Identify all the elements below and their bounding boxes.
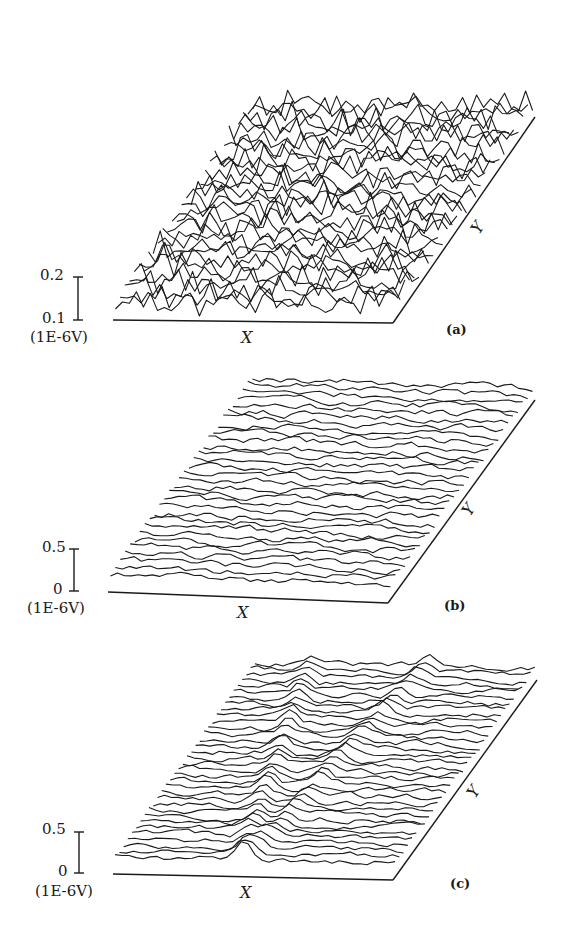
z-top-label-c: 0.5 [42, 820, 66, 838]
z-scale-bar-c [74, 832, 84, 873]
surface-trace [130, 543, 410, 560]
x-axis-label-a: X [241, 328, 252, 347]
surface-traces-a [115, 90, 532, 316]
surface-trace [150, 517, 430, 534]
surface-trace [153, 799, 433, 812]
surface-trace [149, 804, 429, 817]
z-top-label-b: 0.5 [42, 538, 66, 556]
panel-b [69, 379, 535, 603]
surface-trace [132, 824, 412, 839]
panel-label-c: (c) [450, 876, 470, 891]
surface-trace [253, 379, 533, 392]
surface-trace [135, 538, 415, 553]
x-axis-label-b: X [237, 603, 248, 622]
panel-label-a: (a) [446, 322, 467, 337]
y-axis-a [393, 117, 535, 323]
x-axis-b [108, 592, 388, 603]
surface-trace [213, 429, 493, 447]
surface-trace [134, 262, 414, 289]
x-axis-label-c: X [240, 883, 251, 902]
surface-trace [255, 655, 535, 672]
surface-trace [179, 478, 459, 492]
x-axis-a [113, 320, 393, 323]
z-unit-label-c: (1E-6V) [35, 882, 93, 900]
surface-trace [228, 409, 508, 423]
x-axis-c [113, 874, 393, 880]
z-bottom-label-a: 0.1 [42, 309, 66, 327]
z-bottom-label-c: 0 [58, 862, 68, 880]
surface-trace [115, 566, 395, 579]
surface-traces-b [111, 379, 533, 587]
surface-trace [233, 404, 513, 416]
surface-trace [120, 557, 400, 575]
z-scale-bar-b [69, 549, 79, 591]
surface-trace [234, 683, 514, 699]
surface-trace [218, 424, 498, 440]
panel-label-b: (b) [444, 598, 465, 613]
z-bottom-label-b: 0 [53, 580, 63, 598]
surface-trace [194, 458, 474, 471]
z-unit-label-a: (1E-6V) [30, 328, 88, 346]
surface-traces-c [115, 655, 535, 865]
figure-canvas [0, 0, 570, 950]
z-top-label-a: 0.2 [40, 266, 64, 284]
panel-c [74, 655, 537, 880]
surface-trace [223, 414, 503, 432]
z-scale-bar-a [73, 277, 83, 320]
surface-trace [184, 471, 464, 485]
z-unit-label-b: (1E-6V) [27, 599, 85, 617]
surface-trace [199, 450, 479, 465]
panel-a [73, 90, 535, 323]
